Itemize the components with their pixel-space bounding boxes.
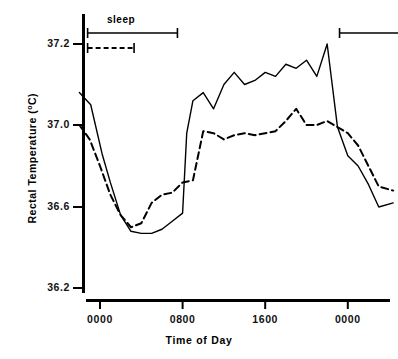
y-axis-title: Rectal Temperature (oC): [26, 63, 39, 253]
sleep-bar-solid-night1: [88, 28, 178, 38]
sleep-annotation-label: sleep: [107, 14, 135, 25]
degree-symbol-icon: o: [26, 105, 33, 110]
y-axis-title-text: Rectal Temperature (: [26, 110, 38, 224]
x-axis-tick-label: 0000: [70, 313, 130, 325]
sleep-bar-dashed-night1: [88, 43, 134, 53]
chart-figure: 37.237.036.636.2 0000080016000000 Rectal…: [0, 0, 398, 359]
data-series-group: [79, 44, 393, 233]
sleep-bar-solid-night2: [340, 28, 398, 38]
data-line-dashed: [79, 109, 393, 227]
sleep-bars-group: [88, 28, 398, 53]
data-line-solid: [79, 44, 393, 233]
chart-plot-area: [0, 0, 398, 359]
y-axis-tick-label: 37.2: [22, 37, 70, 49]
x-axis-tick-label: 1600: [235, 313, 295, 325]
x-axis-tick-label: 0800: [153, 313, 213, 325]
x-axis-title: Time of Day: [0, 334, 398, 346]
x-axis-tick-label: 0000: [318, 313, 378, 325]
axes-group: [73, 14, 390, 309]
y-axis-title-suffix: C): [26, 93, 38, 105]
y-axis-tick-label: 36.2: [22, 281, 70, 293]
